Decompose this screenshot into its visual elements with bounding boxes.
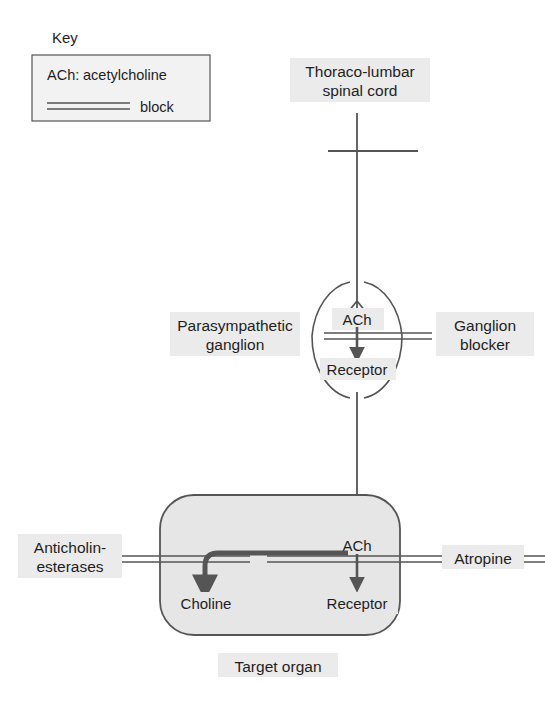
ganglion-label-line1: Parasympathetic — [177, 317, 293, 334]
atropine-label-text: Atropine — [454, 550, 512, 567]
target-organ-caption: Target organ — [218, 653, 338, 677]
ganglion-blocker-line2: blocker — [460, 336, 510, 353]
anticholinesterases-line1: Anticholin- — [34, 539, 106, 556]
key-title: Key — [52, 29, 78, 46]
ganglion-blocker-label: Ganglion blocker — [436, 312, 534, 356]
choline-label: Choline — [181, 595, 232, 612]
diagram-root: Key ACh: acetylcholine block Thoraco-lum… — [0, 0, 545, 713]
organ-receptor-label: Receptor — [327, 595, 388, 612]
ganglion-blocker-line1: Ganglion — [454, 317, 516, 334]
key-box — [32, 55, 210, 121]
atropine-label: Atropine — [442, 545, 524, 569]
anticholinesterases-label: Anticholin- esterases — [18, 534, 122, 578]
key-entry-ach-symbol: ACh: — [47, 67, 79, 83]
parasympathetic-ganglion-label: Parasympathetic ganglion — [170, 312, 300, 356]
key-entry-block-label: block — [140, 99, 175, 115]
anticholinesterases-line2: esterases — [36, 558, 103, 575]
spinal-cord-label: Thoraco-lumbar spinal cord — [290, 58, 430, 102]
key-entry-ach-label: acetylcholine — [83, 67, 167, 83]
ganglion-receptor-label: Receptor — [327, 361, 388, 378]
spinal-cord-label-line2: spinal cord — [323, 82, 398, 99]
autonomic-pathway-diagram: Key ACh: acetylcholine block Thoraco-lum… — [0, 0, 545, 713]
ganglion-ach-label: ACh — [342, 311, 371, 328]
ganglion-label-line2: ganglion — [206, 336, 265, 353]
spinal-cord-label-line1: Thoraco-lumbar — [305, 63, 414, 80]
target-organ-caption-text: Target organ — [234, 658, 321, 675]
